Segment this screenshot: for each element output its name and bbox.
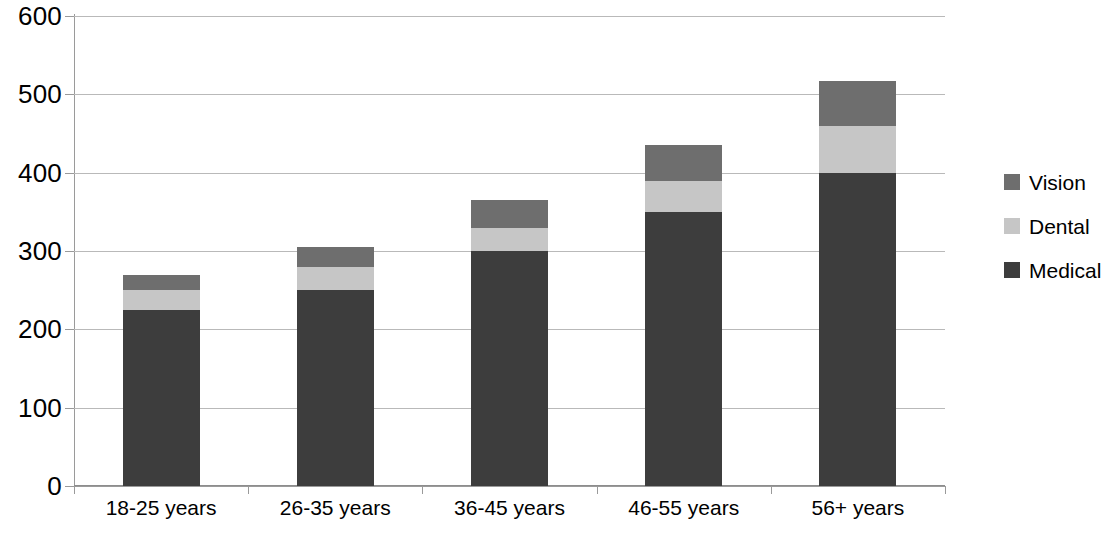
bar-segment-dental[interactable] bbox=[297, 267, 374, 291]
bar-segment-vision[interactable] bbox=[819, 81, 896, 126]
y-tick-label: 500 bbox=[0, 81, 62, 107]
legend-swatch-dental bbox=[1004, 218, 1020, 234]
x-category-label: 18-25 years bbox=[74, 496, 248, 519]
bar-segment-vision[interactable] bbox=[297, 247, 374, 267]
bar-segment-vision[interactable] bbox=[645, 145, 722, 180]
x-tick-mark bbox=[945, 486, 946, 494]
legend-item-dental[interactable]: Dental bbox=[1004, 204, 1116, 248]
x-tick-mark bbox=[74, 486, 75, 494]
x-category-label: 36-45 years bbox=[422, 496, 596, 519]
plot-area bbox=[74, 16, 945, 486]
bar-segment-vision[interactable] bbox=[123, 275, 200, 291]
bar-segment-medical[interactable] bbox=[123, 310, 200, 486]
y-tick-mark bbox=[65, 94, 74, 95]
bar-segment-medical[interactable] bbox=[297, 290, 374, 486]
bars-layer bbox=[74, 16, 945, 486]
bar-stack[interactable] bbox=[819, 81, 896, 486]
bar-segment-dental[interactable] bbox=[819, 126, 896, 173]
bar-stack[interactable] bbox=[645, 145, 722, 486]
bar-segment-dental[interactable] bbox=[471, 228, 548, 252]
y-tick-mark bbox=[65, 408, 74, 409]
stacked-bar-chart: 6005004003002001000 18-25 years26-35 yea… bbox=[0, 0, 1116, 535]
bar-segment-medical[interactable] bbox=[645, 212, 722, 486]
bar-segment-medical[interactable] bbox=[471, 251, 548, 486]
y-tick-label: 400 bbox=[0, 160, 62, 186]
legend-item-medical[interactable]: Medical bbox=[1004, 248, 1116, 292]
y-tick-mark bbox=[65, 251, 74, 252]
y-tick-mark bbox=[65, 329, 74, 330]
y-tick-mark bbox=[65, 16, 74, 17]
x-category-label: 26-35 years bbox=[248, 496, 422, 519]
x-category-label: 56+ years bbox=[771, 496, 945, 519]
y-tick-label: 100 bbox=[0, 395, 62, 421]
y-tick-label: 200 bbox=[0, 316, 62, 342]
bar-stack[interactable] bbox=[471, 200, 548, 486]
bar-segment-dental[interactable] bbox=[123, 290, 200, 310]
legend-swatch-medical bbox=[1004, 262, 1020, 278]
legend-swatch-vision bbox=[1004, 174, 1020, 190]
y-tick-label: 0 bbox=[0, 473, 62, 499]
x-axis-category-labels: 18-25 years26-35 years36-45 years46-55 y… bbox=[74, 496, 945, 530]
x-category-label: 46-55 years bbox=[597, 496, 771, 519]
gridline bbox=[74, 486, 945, 487]
x-tick-mark bbox=[771, 486, 772, 494]
chart-legend: VisionDentalMedical bbox=[1004, 160, 1116, 292]
y-tick-label: 300 bbox=[0, 238, 62, 264]
x-tick-mark bbox=[597, 486, 598, 494]
x-tick-mark bbox=[248, 486, 249, 494]
bar-segment-vision[interactable] bbox=[471, 200, 548, 227]
y-axis-tick-labels: 6005004003002001000 bbox=[0, 0, 62, 535]
legend-item-vision[interactable]: Vision bbox=[1004, 160, 1116, 204]
y-tick-mark bbox=[65, 486, 74, 487]
y-tick-mark bbox=[65, 173, 74, 174]
y-tick-label: 600 bbox=[0, 3, 62, 29]
legend-label: Medical bbox=[1029, 260, 1101, 281]
bar-stack[interactable] bbox=[123, 275, 200, 487]
x-tick-mark bbox=[422, 486, 423, 494]
legend-label: Dental bbox=[1029, 216, 1090, 237]
legend-label: Vision bbox=[1029, 172, 1086, 193]
bar-segment-medical[interactable] bbox=[819, 173, 896, 486]
bar-segment-dental[interactable] bbox=[645, 181, 722, 212]
bar-stack[interactable] bbox=[297, 247, 374, 486]
